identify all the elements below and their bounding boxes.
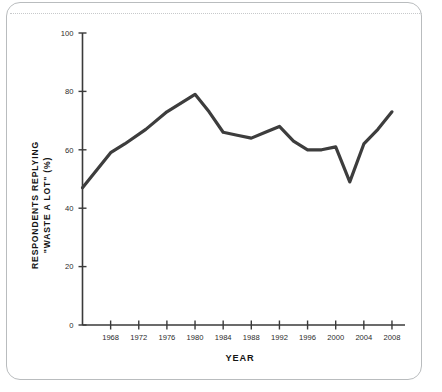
y-tick-label: 40 — [65, 204, 73, 213]
x-tick-label: 1984 — [215, 333, 232, 342]
data-series-line — [83, 94, 392, 187]
chart-page: 020406080100 196819721976198019841988199… — [0, 0, 442, 392]
x-tick-label: 1980 — [187, 333, 204, 342]
x-tick-label: 1968 — [102, 333, 119, 342]
y-axis-title-line2: "WASTE A LOT" (%) — [42, 157, 52, 253]
series-polyline — [83, 94, 392, 187]
x-tick-label: 2008 — [384, 333, 401, 342]
y-tick-label: 0 — [69, 321, 73, 330]
x-tick-label: 1988 — [243, 333, 260, 342]
y-tick-label: 100 — [61, 29, 74, 38]
x-tick-label: 1996 — [299, 333, 316, 342]
x-tick-label: 2004 — [355, 333, 372, 342]
y-axis-title-line1: RESPONDENTS REPLYING — [30, 141, 40, 269]
y-tick-label: 80 — [65, 87, 73, 96]
x-axis-title: YEAR — [225, 353, 254, 363]
x-tick-label: 2000 — [327, 333, 344, 342]
x-tick-label: 1972 — [130, 333, 147, 342]
line-chart: 020406080100 196819721976198019841988199… — [0, 0, 442, 392]
y-tick-label: 60 — [65, 146, 73, 155]
y-axis-title: RESPONDENTS REPLYING "WASTE A LOT" (%) — [30, 141, 52, 269]
x-tick-label: 1976 — [158, 333, 175, 342]
y-tick-label: 20 — [65, 262, 73, 271]
x-tick-label: 1992 — [271, 333, 288, 342]
x-axis-ticks: 1968197219761980198419881992199620002004… — [102, 321, 400, 343]
chart-axes — [83, 33, 406, 325]
